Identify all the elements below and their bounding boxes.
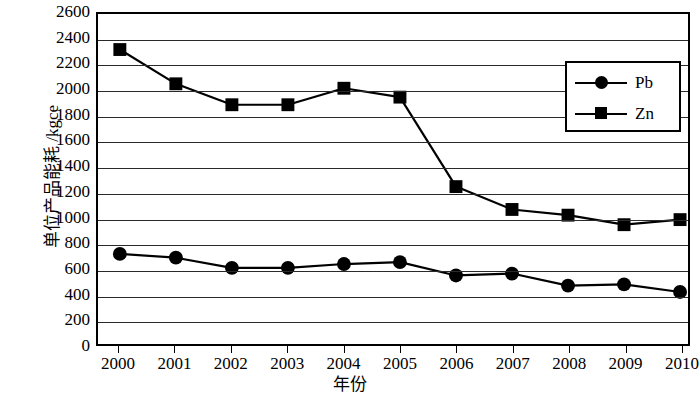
data-point <box>450 180 463 193</box>
legend-label: Zn <box>635 105 654 122</box>
data-point <box>225 98 238 111</box>
data-point <box>225 261 239 275</box>
x-axis-title: 年份 <box>0 376 700 393</box>
y-axis-tick-label: 1000 <box>34 209 90 226</box>
data-point <box>393 255 407 269</box>
x-axis-tick-mark <box>231 346 232 353</box>
gridline <box>98 220 688 221</box>
gridline <box>98 142 688 143</box>
x-axis-tick-mark <box>174 346 175 353</box>
y-axis-tick-label: 1400 <box>34 157 90 174</box>
chart-container: 单位产品能耗 /kgce 260024002200200018001600140… <box>0 0 700 399</box>
y-axis-tick-label: 600 <box>34 260 90 277</box>
x-axis-tick-mark <box>513 346 514 353</box>
x-axis-tick-mark <box>118 346 119 353</box>
gridline <box>98 245 688 246</box>
data-point <box>561 279 575 293</box>
legend-marker-circle-icon <box>573 71 629 93</box>
data-point <box>617 277 631 291</box>
x-axis-tick-mark <box>287 346 288 353</box>
data-point <box>506 203 519 216</box>
x-axis-tick-mark <box>400 346 401 353</box>
x-axis-tick-label: 2010 <box>647 355 700 372</box>
y-axis-tick-label: 2200 <box>34 54 90 71</box>
series-pb <box>113 247 687 299</box>
y-axis-tick-labels: 2600240022002000180016001400120010008006… <box>30 0 90 399</box>
x-axis-tick-mark <box>682 346 683 353</box>
y-axis-tick-label: 2000 <box>34 80 90 97</box>
data-point <box>505 267 519 281</box>
data-point <box>113 43 126 56</box>
data-point <box>169 251 183 265</box>
chart-legend: PbZn <box>565 61 681 132</box>
legend-marker-square-icon <box>573 102 629 124</box>
gridline <box>98 322 688 323</box>
y-axis-tick-label: 2600 <box>34 3 90 20</box>
y-axis-tick-label: 0 <box>34 337 90 354</box>
gridline <box>98 194 688 195</box>
y-axis-tick-label: 1800 <box>34 106 90 123</box>
gridline <box>98 40 688 41</box>
y-axis-tick-label: 200 <box>34 311 90 328</box>
data-point <box>113 247 127 261</box>
legend-item-zn[interactable]: Zn <box>567 98 679 128</box>
legend-label: Pb <box>635 74 653 91</box>
gridline <box>98 297 688 298</box>
x-axis-tick-mark <box>626 346 627 353</box>
y-axis-tick-label: 1200 <box>34 183 90 200</box>
y-axis-tick-label: 400 <box>34 286 90 303</box>
y-axis-tick-label: 2400 <box>34 29 90 46</box>
x-axis-tick-mark <box>569 346 570 353</box>
gridline <box>98 168 688 169</box>
data-point <box>169 77 182 90</box>
y-axis-tick-label: 800 <box>34 234 90 251</box>
gridline <box>98 271 688 272</box>
data-point <box>337 257 351 271</box>
data-point <box>281 98 294 111</box>
data-point <box>281 261 295 275</box>
legend-item-pb[interactable]: Pb <box>567 67 679 97</box>
x-axis-tick-mark <box>344 346 345 353</box>
data-point <box>393 91 406 104</box>
data-point <box>337 82 350 95</box>
y-axis-tick-label: 1600 <box>34 131 90 148</box>
x-axis-tick-mark <box>456 346 457 353</box>
